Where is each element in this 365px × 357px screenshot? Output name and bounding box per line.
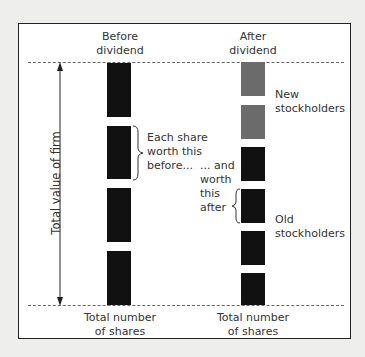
each-share-annotation: Each share worth this before... — [147, 131, 208, 173]
old-line1: Old — [275, 213, 345, 227]
before-share-bar — [107, 126, 131, 179]
each-line2: worth this — [147, 145, 208, 159]
total-value-axis-label: Total value of firm — [49, 123, 63, 243]
new-stockholders-label: New stockholders — [275, 88, 345, 116]
and-line2: worth — [200, 173, 235, 187]
brace-before-icon — [132, 124, 146, 182]
after-old-share-bar — [241, 273, 265, 305]
old-line2: stockholders — [275, 227, 345, 241]
bottom1-line1: Total number — [70, 311, 170, 325]
top-dashed-line — [28, 62, 344, 63]
old-stockholders-label: Old stockholders — [275, 213, 345, 241]
bottom1-line2: of shares — [70, 325, 170, 339]
after-old-share-bar — [241, 147, 265, 181]
bottom-dashed-line — [28, 305, 344, 306]
each-line1: Each share — [147, 131, 208, 145]
after-heading-line1: After — [213, 30, 293, 44]
bottom2-line2: of shares — [203, 325, 303, 339]
after-dividend-heading: After dividend — [213, 30, 293, 58]
before-share-bar — [107, 188, 131, 242]
after-new-share-bar — [241, 62, 265, 96]
and-line1: ... and — [200, 159, 235, 173]
before-share-bar — [107, 63, 131, 117]
before-total-shares-label: Total number of shares — [70, 311, 170, 339]
new-line2: stockholders — [275, 102, 345, 116]
each-line3: before... — [147, 159, 208, 173]
new-line1: New — [275, 88, 345, 102]
after-heading-line2: dividend — [213, 44, 293, 58]
after-total-shares-label: Total number of shares — [203, 311, 303, 339]
after-old-share-bar — [241, 231, 265, 265]
after-old-share-bar — [241, 189, 265, 223]
before-dividend-heading: Before dividend — [80, 30, 160, 58]
before-heading-line2: dividend — [80, 44, 160, 58]
before-heading-line1: Before — [80, 30, 160, 44]
before-share-bar — [107, 251, 131, 305]
bottom2-line1: Total number — [203, 311, 303, 325]
after-new-share-bar — [241, 105, 265, 139]
